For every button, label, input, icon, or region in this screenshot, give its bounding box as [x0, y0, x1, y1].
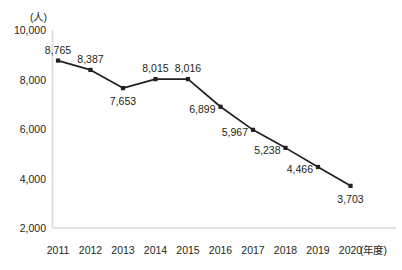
data-point-marker: [218, 105, 222, 109]
y-axis-tick-label: 4,000: [0, 174, 46, 185]
data-point-label: 6,899: [180, 104, 216, 115]
x-axis-tick-label: 2011: [41, 245, 75, 256]
x-axis-tick-label: 2013: [106, 245, 140, 256]
data-point-marker: [251, 128, 255, 132]
line-chart: (人) (年度) 10,0008,0006,0004,0002,000 2011…: [0, 0, 402, 270]
x-axis-tick-label: 2014: [139, 245, 173, 256]
y-axis-tick-label: 10,000: [0, 25, 46, 36]
x-axis-tick-label: 2016: [204, 245, 238, 256]
x-axis-tick-label: 2019: [301, 245, 335, 256]
data-point-label: 8,765: [40, 45, 76, 56]
x-axis-tick-label: 2015: [171, 245, 205, 256]
data-point-label: 5,238: [245, 145, 281, 156]
data-point-label: 7,653: [105, 96, 141, 107]
x-axis-tick-label: 2012: [74, 245, 108, 256]
x-axis-tick-label: 2017: [236, 245, 270, 256]
y-axis-tick-label: 6,000: [0, 124, 46, 135]
data-point-marker: [88, 68, 92, 72]
y-axis-tick-label: 8,000: [0, 75, 46, 86]
x-axis-tick-label: 2020: [334, 245, 368, 256]
data-point-label: 8,016: [170, 63, 206, 74]
y-axis-tick-label: 2,000: [0, 223, 46, 234]
data-point-label: 8,015: [138, 63, 174, 74]
data-point-label: 8,387: [73, 54, 109, 65]
data-point-marker: [121, 86, 125, 90]
data-point-marker: [348, 184, 352, 188]
data-point-marker: [283, 146, 287, 150]
chart-canvas: [0, 0, 402, 270]
data-point-marker: [56, 58, 60, 62]
data-point-marker: [153, 77, 157, 81]
data-point-marker: [316, 165, 320, 169]
data-point-label: 5,967: [212, 127, 248, 138]
y-axis-unit-label: (人): [30, 12, 47, 23]
data-point-label: 3,703: [333, 194, 369, 205]
data-point-label: 4,466: [277, 164, 313, 175]
x-axis-tick-label: 2018: [269, 245, 303, 256]
data-point-marker: [186, 77, 190, 81]
